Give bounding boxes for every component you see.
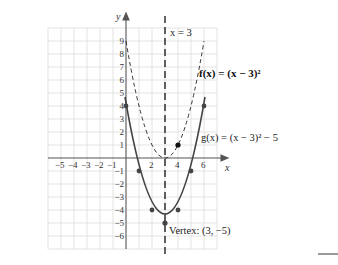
y-tick: 3 xyxy=(120,114,125,124)
f-label: f(x) = (x − 3)² xyxy=(199,67,261,80)
parabola-graph: x y −5 −4 −3 −2 −1 2 4 6 9 8 7 6 5 4 3 2… xyxy=(0,0,338,265)
y-tick: 8 xyxy=(120,49,125,59)
point-4-1 xyxy=(175,142,180,147)
y-tick: −5 xyxy=(114,218,124,228)
point xyxy=(137,169,142,174)
x-tick: 2 xyxy=(149,160,154,170)
y-tick: −2 xyxy=(114,179,124,189)
y-tick: −3 xyxy=(114,192,124,202)
y-axis-arrow-icon xyxy=(123,13,129,20)
x-axis-arrow-icon xyxy=(221,155,228,161)
x-tick-labels: −5 −4 −3 −2 −1 2 4 6 xyxy=(55,160,206,170)
x-tick: 6 xyxy=(201,160,206,170)
y-tick: 5 xyxy=(120,88,125,98)
x-axis-label: x xyxy=(224,162,230,173)
g-label: g(x) = (x − 3)² − 5 xyxy=(201,132,278,144)
x-tick: −3 xyxy=(81,160,91,170)
x-tick: 4 xyxy=(175,160,180,170)
y-tick: 9 xyxy=(120,36,125,46)
point xyxy=(189,169,194,174)
x-tick: −5 xyxy=(55,160,65,170)
y-tick: −6 xyxy=(114,231,124,241)
y-tick: 2 xyxy=(120,127,125,137)
point xyxy=(124,104,129,109)
vertex-label: Vertex: (3, −5) xyxy=(169,225,231,237)
x-tick: −4 xyxy=(68,160,78,170)
point xyxy=(162,220,167,225)
axes xyxy=(48,13,228,249)
point xyxy=(176,208,181,213)
y-axis-label: y xyxy=(115,11,121,22)
x-tick: −2 xyxy=(94,160,104,170)
symmetry-label: x = 3 xyxy=(170,27,192,38)
y-tick: 1 xyxy=(120,140,125,150)
y-tick: −1 xyxy=(114,166,124,176)
point xyxy=(202,104,207,109)
y-tick: −4 xyxy=(114,205,124,215)
y-tick: 6 xyxy=(120,75,125,85)
point xyxy=(150,208,155,213)
y-tick: 7 xyxy=(120,62,125,72)
